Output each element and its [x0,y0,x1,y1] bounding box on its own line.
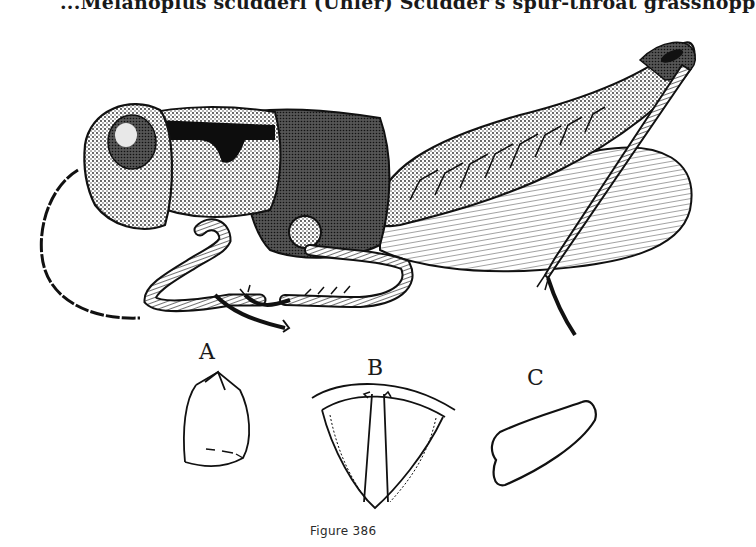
detail-label-a: A [199,339,215,364]
detail-b-outline [312,384,455,508]
detail-a-outline [184,372,249,466]
figure-caption: Figure 386 [310,524,376,538]
detail-label-b: B [367,355,383,380]
middle-coxa [289,216,321,248]
detail-label-c: C [527,365,544,390]
detail-c-outline [492,401,596,485]
hind-tarsus [548,278,575,335]
